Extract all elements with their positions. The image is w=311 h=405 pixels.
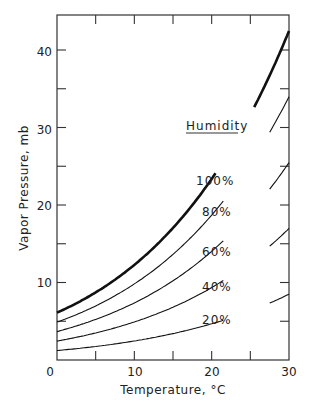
curve-20 bbox=[57, 320, 223, 350]
y-axis-title: Vapor Pressure, mb bbox=[17, 125, 31, 251]
humidity-curves bbox=[57, 31, 289, 351]
curve-40 bbox=[57, 281, 223, 342]
label-100: 100% bbox=[196, 174, 234, 188]
curve-100 bbox=[254, 31, 289, 107]
label-60: 60% bbox=[202, 245, 232, 259]
label-40: 40% bbox=[202, 280, 232, 294]
x-axis-title: Temperature, °C bbox=[119, 383, 226, 397]
curve-100 bbox=[57, 173, 216, 312]
y-tick-40: 40 bbox=[37, 45, 52, 59]
x-tick-20: 20 bbox=[204, 365, 219, 379]
x-tick-30: 30 bbox=[281, 365, 296, 379]
curve-60 bbox=[57, 241, 223, 332]
label-80: 80% bbox=[202, 205, 232, 219]
vapor-pressure-chart: 0 10 20 30 10 20 30 40 Temperature, °C V… bbox=[0, 0, 311, 405]
curve-20 bbox=[270, 294, 289, 303]
legend-title: Humidity bbox=[186, 119, 248, 133]
y-tick-30: 30 bbox=[37, 123, 52, 137]
label-20: 20% bbox=[202, 313, 232, 327]
curve-60 bbox=[270, 163, 289, 190]
x-tick-0: 0 bbox=[46, 365, 54, 379]
y-tick-10: 10 bbox=[37, 276, 52, 290]
y-tick-20: 20 bbox=[37, 199, 52, 213]
x-tick-10: 10 bbox=[127, 365, 142, 379]
